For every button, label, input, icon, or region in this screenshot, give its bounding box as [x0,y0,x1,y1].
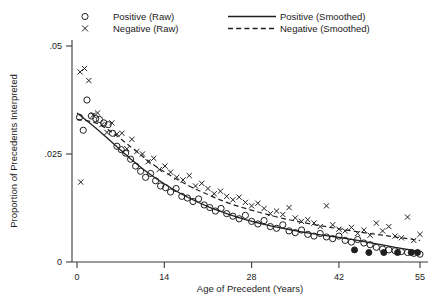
chart-legend: Positive (Raw) Negative (Raw) Positive (… [82,11,370,34]
x-axis-title: Age of Precedent (Years) [197,283,303,294]
data-point-negative-raw [78,69,83,74]
chart-figure: Positive (Raw) Negative (Raw) Positive (… [0,0,436,300]
data-point-positive-raw [242,212,248,218]
data-point-positive-raw [373,244,379,250]
data-point-negative-raw [349,225,354,230]
data-point-negative-raw [343,228,348,233]
data-point-positive-raw [96,116,102,122]
legend-label-positive-smoothed: Positive (Smoothed) [280,11,366,22]
x-tick-label: 0 [74,272,79,282]
data-point-negative-raw [218,189,223,194]
data-point-negative-raw [86,78,91,83]
legend-marker-positive-raw [82,13,88,19]
data-point-negative-raw [286,205,291,210]
series-negative-raw-markers [78,66,423,243]
data-point-negative-raw [255,201,260,206]
y-tick-label: .025 [44,149,62,159]
data-point-negative-raw [330,222,335,227]
legend-label-negative-raw: Negative (Raw) [113,23,178,34]
data-point-negative-raw [280,212,285,217]
data-point-filled [366,249,372,255]
y-axis-title: Proportion of Precedents Interpreted [8,74,19,228]
data-point-negative-raw [193,183,198,188]
data-point-positive-raw [261,217,267,223]
series-positive-smoothed-line [77,113,420,252]
data-point-filled [381,249,387,255]
data-point-negative-raw [392,233,397,238]
data-point-negative-raw [305,217,310,222]
data-point-negative-raw [199,181,204,186]
data-point-negative-raw [212,191,217,196]
data-point-negative-raw [230,197,235,202]
legend-label-positive-raw: Positive (Raw) [113,11,174,22]
data-point-negative-raw [205,186,210,191]
data-point-positive-raw [84,97,90,103]
y-tick-label: 0 [57,257,62,267]
data-point-negative-raw [162,163,167,168]
x-tick-label: 28 [247,272,257,282]
data-point-negative-raw [151,156,156,161]
data-point-negative-raw [109,120,114,125]
data-point-positive-raw [133,163,139,169]
data-point-negative-raw [180,177,185,182]
precedents-scatter-chart: Positive (Raw) Negative (Raw) Positive (… [0,0,436,300]
legend-marker-negative-raw [82,25,88,31]
data-point-negative-raw [324,203,329,208]
data-point-negative-raw [119,131,124,136]
data-point-negative-raw [237,195,242,200]
data-point-positive-raw [167,189,173,195]
data-point-negative-raw [417,232,422,237]
data-point-negative-raw [243,200,248,205]
x-tick-label: 14 [159,272,169,282]
data-point-positive-raw [80,127,86,133]
data-point-negative-raw [249,203,254,208]
data-point-negative-raw [82,66,87,71]
y-tick-label: .05 [49,41,62,51]
data-point-negative-raw [374,221,379,226]
data-point-negative-raw [261,206,266,211]
data-point-filled [352,247,358,253]
data-point-negative-raw [380,228,385,233]
data-point-negative-raw [224,194,229,199]
data-point-filled [395,249,401,255]
x-tick-label: 55 [415,272,425,282]
data-point-negative-raw [187,173,192,178]
data-point-negative-raw [405,214,410,219]
data-point-negative-raw [268,211,273,216]
x-axis-ticks: 014284255 [74,262,425,282]
y-axis-ticks: 0.025.05 [44,41,72,267]
data-point-negative-raw [78,179,83,184]
legend-label-negative-smoothed: Negative (Smoothed) [280,23,370,34]
x-tick-label: 42 [334,272,344,282]
data-point-negative-raw [386,224,391,229]
data-point-negative-raw [274,208,279,213]
data-point-negative-raw [293,215,298,220]
data-point-negative-raw [129,137,134,142]
data-point-positive-raw [280,222,286,228]
data-point-negative-raw [411,238,416,243]
